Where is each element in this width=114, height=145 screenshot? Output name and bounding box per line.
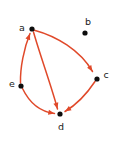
graph-edge-e-d xyxy=(23,89,55,115)
graph-svg: abcde xyxy=(0,0,114,145)
graph-edge-e-a xyxy=(20,34,30,84)
edge-line-a-c xyxy=(34,30,92,71)
graph-node-d[interactable] xyxy=(57,111,62,116)
graph-node-b[interactable] xyxy=(82,30,87,35)
graph-node-label-a: a xyxy=(19,22,25,33)
graph-node-label-b: b xyxy=(85,16,91,27)
graph-node-label-e: e xyxy=(9,78,15,89)
edge-arrowhead-e-a xyxy=(25,34,30,41)
edge-arrowhead-c-d xyxy=(65,106,72,111)
graph-node-e[interactable] xyxy=(18,83,23,88)
graph-edge-a-c xyxy=(34,30,92,71)
edges-layer xyxy=(20,30,95,115)
edge-line-e-a xyxy=(20,34,30,84)
graph-node-a[interactable] xyxy=(29,26,34,31)
edge-line-c-d xyxy=(65,82,95,112)
edge-arrowhead-a-c xyxy=(87,65,92,72)
edge-line-e-d xyxy=(23,89,55,114)
graph-node-label-d: d xyxy=(58,121,64,132)
graph-edge-a-d xyxy=(34,32,59,109)
graph-node-c[interactable] xyxy=(94,76,99,81)
graph-canvas: abcde xyxy=(0,0,114,145)
graph-edge-c-d xyxy=(65,82,95,112)
edge-line-a-d xyxy=(34,32,58,109)
graph-node-label-c: c xyxy=(103,69,108,80)
edge-arrowhead-a-d xyxy=(53,102,58,109)
